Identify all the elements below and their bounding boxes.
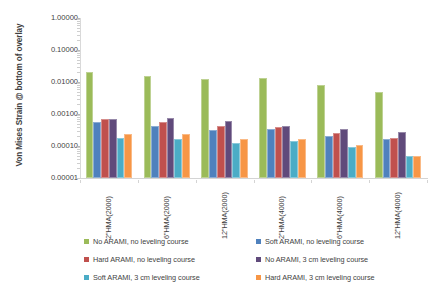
- legend-item[interactable]: Soft ARAMI, 3 cm leveling course: [84, 270, 200, 284]
- x-axis-category-label: 12"HMA(4000): [393, 179, 403, 239]
- bar[interactable]: [298, 139, 306, 178]
- bar[interactable]: [151, 126, 159, 178]
- x-axis-tick: [138, 180, 139, 183]
- bar[interactable]: [217, 126, 225, 178]
- y-axis-minor-tick: [77, 40, 80, 41]
- bar[interactable]: [333, 133, 341, 178]
- bar[interactable]: [201, 79, 209, 178]
- bar[interactable]: [348, 147, 356, 178]
- bar[interactable]: [275, 127, 283, 178]
- bar[interactable]: [117, 138, 125, 178]
- bar[interactable]: [124, 134, 132, 178]
- y-axis-minor-tick: [77, 51, 80, 52]
- bar[interactable]: [325, 136, 333, 178]
- x-axis-tick: [80, 180, 81, 183]
- bar[interactable]: [174, 139, 182, 178]
- y-axis-tick-label: 0.00100: [28, 110, 78, 118]
- y-axis-tick-label: 1.00000: [28, 14, 78, 22]
- legend-label: No ARAMI, 3 cm leveling course: [265, 255, 368, 264]
- y-axis-major-tick: [76, 114, 80, 115]
- bar[interactable]: [340, 129, 348, 178]
- bar[interactable]: [109, 119, 117, 178]
- y-axis-major-tick: [76, 18, 80, 19]
- y-axis-minor-tick: [77, 163, 80, 164]
- x-axis-tick: [196, 180, 197, 183]
- bar[interactable]: [259, 78, 267, 178]
- y-axis-minor-tick: [77, 53, 80, 54]
- bar[interactable]: [144, 76, 152, 178]
- y-axis-minor-tick: [77, 147, 80, 148]
- bar[interactable]: [101, 119, 109, 178]
- bar[interactable]: [240, 139, 248, 178]
- bar[interactable]: [375, 92, 383, 178]
- legend-item[interactable]: No ARAMI, no leveling course: [84, 234, 189, 248]
- y-axis-minor-tick: [77, 131, 80, 132]
- legend-color-swatch: [84, 257, 89, 262]
- bar[interactable]: [383, 139, 391, 178]
- chart-container: Von Mises Strain @ bottom of overlay 1.0…: [0, 0, 431, 296]
- y-axis-minor-tick: [77, 115, 80, 116]
- legend-item[interactable]: Soft ARAMI, no leveling course: [256, 234, 364, 248]
- y-axis-minor-tick: [77, 87, 80, 88]
- bar[interactable]: [290, 141, 298, 178]
- bar-group: [375, 18, 421, 178]
- legend-label: No ARAMI, no leveling course: [93, 237, 189, 246]
- bar[interactable]: [159, 122, 167, 178]
- y-axis-minor-tick: [77, 21, 80, 22]
- x-axis-category-label: 12"HMA(2000): [220, 179, 230, 239]
- y-axis-minor-tick: [77, 83, 80, 84]
- y-axis-minor-tick: [77, 60, 80, 61]
- x-axis-tick: [254, 180, 255, 183]
- y-axis-minor-tick: [77, 168, 80, 169]
- y-axis-minor-tick: [77, 159, 80, 160]
- legend-color-swatch: [84, 239, 89, 244]
- bar[interactable]: [267, 129, 275, 178]
- y-axis-minor-tick: [77, 99, 80, 100]
- y-axis-minor-tick: [77, 57, 80, 58]
- y-axis-minor-tick: [77, 85, 80, 86]
- legend-item[interactable]: No ARAMI, 3 cm leveling course: [256, 252, 368, 266]
- y-axis-major-tick: [76, 50, 80, 51]
- bar[interactable]: [356, 145, 364, 178]
- legend-label: Soft ARAMI, 3 cm leveling course: [93, 273, 200, 282]
- bar[interactable]: [317, 85, 325, 178]
- bar[interactable]: [93, 122, 101, 178]
- bar[interactable]: [182, 134, 190, 178]
- bar[interactable]: [282, 126, 290, 178]
- y-axis-minor-tick: [77, 67, 80, 68]
- bar[interactable]: [232, 143, 240, 178]
- y-axis-minor-tick: [77, 151, 80, 152]
- x-axis-tick: [369, 180, 370, 183]
- bar[interactable]: [413, 156, 421, 178]
- bar[interactable]: [225, 121, 233, 178]
- y-axis-major-tick: [76, 146, 80, 147]
- y-axis-minor-tick: [77, 104, 80, 105]
- y-axis-minor-tick: [77, 55, 80, 56]
- y-axis-minor-tick: [77, 89, 80, 90]
- legend-item[interactable]: Hard ARAMI, 3 cm leveling course: [256, 270, 375, 284]
- x-axis-tick: [311, 180, 312, 183]
- legend-color-swatch: [256, 257, 261, 262]
- bar[interactable]: [398, 132, 406, 178]
- y-axis-minor-tick: [77, 95, 80, 96]
- legend-label: Hard ARAMI, 3 cm leveling course: [265, 273, 375, 282]
- y-axis-minor-tick: [77, 136, 80, 137]
- bar[interactable]: [390, 138, 398, 178]
- bar[interactable]: [209, 130, 217, 178]
- bar[interactable]: [167, 118, 175, 178]
- y-axis-minor-tick: [77, 121, 80, 122]
- y-axis-minor-tick: [77, 19, 80, 20]
- y-axis-minor-tick: [77, 92, 80, 93]
- bar[interactable]: [406, 156, 414, 178]
- bar-group: [86, 18, 132, 178]
- y-axis-minor-tick: [77, 127, 80, 128]
- y-axis-tick-labels: 1.000000.100000.010000.001000.000100.000…: [28, 0, 78, 190]
- y-axis-tick-label: 0.01000: [28, 78, 78, 86]
- y-axis-minor-tick: [77, 117, 80, 118]
- legend-item[interactable]: Hard ARAMI, no leveling course: [84, 252, 195, 266]
- y-axis-tick-label: 0.10000: [28, 46, 78, 54]
- bar[interactable]: [86, 72, 94, 178]
- y-axis-minor-tick: [77, 153, 80, 154]
- y-axis-minor-tick: [77, 156, 80, 157]
- y-axis-major-tick: [76, 82, 80, 83]
